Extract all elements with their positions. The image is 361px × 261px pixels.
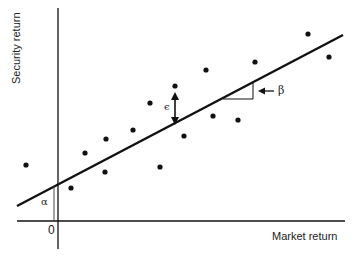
- x-axis-label: Market return: [272, 230, 337, 242]
- data-point: [23, 162, 28, 167]
- data-point: [103, 136, 108, 141]
- data-point: [252, 59, 257, 64]
- alpha-label: α: [41, 196, 48, 207]
- data-point: [203, 67, 208, 72]
- data-point: [157, 164, 162, 169]
- regression-line: [17, 35, 343, 206]
- epsilon-residual-arrow-icon: [171, 92, 179, 125]
- data-point: [68, 185, 73, 190]
- data-points: [23, 31, 331, 190]
- data-point: [181, 133, 186, 138]
- data-point: [326, 54, 331, 59]
- data-point: [147, 100, 152, 105]
- data-point: [235, 117, 240, 122]
- data-point: [102, 169, 107, 174]
- y-axis-label: Security return: [10, 12, 22, 84]
- beta-arrow-icon: [258, 88, 274, 95]
- origin-label: 0: [48, 223, 55, 237]
- regression-diagram: [0, 0, 361, 261]
- beta-label: β: [278, 84, 284, 97]
- data-point: [130, 127, 135, 132]
- data-point: [305, 31, 310, 36]
- data-point: [172, 83, 177, 88]
- data-point: [82, 150, 87, 155]
- epsilon-label: ϵ: [164, 101, 170, 112]
- data-point: [210, 113, 215, 118]
